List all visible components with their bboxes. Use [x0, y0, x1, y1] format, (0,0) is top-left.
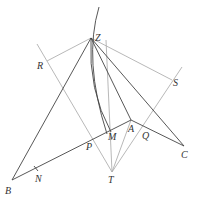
label-N: N [34, 173, 43, 184]
line-Z-C [91, 38, 184, 146]
label-R: R [36, 60, 43, 71]
label-C: C [181, 149, 188, 160]
line-Z-S [91, 38, 172, 80]
label-T: T [108, 174, 115, 185]
label-Z: Z [95, 32, 101, 43]
line-R-T [37, 44, 112, 172]
label-B: B [5, 185, 11, 196]
geometry-diagram: Z R S B N P M A Q C T [0, 0, 202, 201]
label-P: P [85, 141, 92, 152]
line-T-M [106, 40, 112, 172]
line-A-C [131, 120, 184, 146]
line-T-S [112, 67, 182, 172]
line-Z-A [91, 38, 131, 120]
label-S: S [173, 77, 178, 88]
label-M: M [107, 131, 117, 142]
line-Z-B [12, 38, 91, 180]
label-A: A [127, 123, 135, 134]
arc-through-Z-to-M [93, 7, 107, 134]
label-Q: Q [142, 130, 150, 141]
